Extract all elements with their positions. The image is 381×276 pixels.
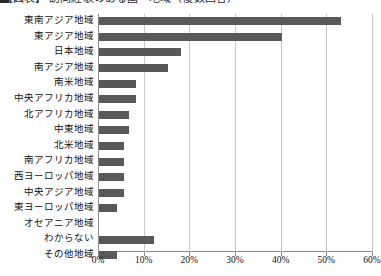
bar-row: 東南アジア地域 — [98, 14, 372, 30]
bar — [99, 80, 136, 88]
bar-row: 南アジア地域 — [98, 61, 372, 77]
x-tick-label: 0% — [92, 254, 105, 266]
x-tick-label: 30% — [226, 254, 243, 266]
bar-row: 中央アジア地域 — [98, 186, 372, 202]
chart-title-clipped: 【図表】 訪問経験のある国・地域（複数回答） — [0, 0, 377, 7]
bar — [99, 111, 129, 119]
gridline — [372, 14, 373, 252]
bar — [99, 17, 341, 25]
x-tick-label: 50% — [318, 254, 335, 266]
bar-row: 西ヨーロッパ地域 — [98, 170, 372, 186]
bar — [99, 95, 136, 103]
bar-row: 東アジア地域 — [98, 30, 372, 46]
category-label: 南アジア地域 — [0, 60, 94, 76]
category-label: 南米地域 — [0, 75, 94, 91]
bar-row: 中東地域 — [98, 123, 372, 139]
bar — [99, 189, 124, 197]
bar — [99, 64, 168, 72]
category-label: その他地域 — [0, 247, 94, 263]
bar — [99, 173, 124, 181]
bar-row: 北アフリカ地域 — [98, 108, 372, 124]
category-label: わからない — [0, 231, 94, 247]
x-tick-label: 60% — [363, 254, 380, 266]
bar — [99, 204, 117, 212]
category-label: 中央アフリカ地域 — [0, 91, 94, 107]
x-tick-label: 20% — [181, 254, 198, 266]
category-label: オセアニア地域 — [0, 216, 94, 232]
page-title: 【図表】 訪問経験のある国・地域（複数回答） — [2, 0, 238, 5]
category-label: 北アフリカ地域 — [0, 107, 94, 123]
category-label: 西ヨーロッパ地域 — [0, 169, 94, 185]
category-label: 東アジア地域 — [0, 29, 94, 45]
x-tick-label: 10% — [135, 254, 152, 266]
bar — [99, 236, 154, 244]
x-axis-labels: 0%10%20%30%40%50%60% — [98, 254, 372, 268]
category-label: 南アフリカ地域 — [0, 153, 94, 169]
bar — [99, 158, 124, 166]
plot-area: 東南アジア地域東アジア地域日本地域南アジア地域南米地域中央アフリカ地域北アフリカ… — [98, 14, 372, 252]
category-label: 北米地域 — [0, 138, 94, 154]
bar — [99, 33, 282, 41]
bar-row: 北米地域 — [98, 139, 372, 155]
category-label: 東ヨーロッパ地域 — [0, 200, 94, 216]
bar-row: オセアニア地域 — [98, 217, 372, 233]
bar-rows: 東南アジア地域東アジア地域日本地域南アジア地域南米地域中央アフリカ地域北アフリカ… — [98, 14, 372, 252]
category-label: 中東地域 — [0, 122, 94, 138]
bar-row: 南米地域 — [98, 76, 372, 92]
bar-row: 日本地域 — [98, 45, 372, 61]
category-label: 中央アジア地域 — [0, 185, 94, 201]
bar — [99, 48, 181, 56]
x-tick-label: 40% — [272, 254, 289, 266]
bar-row: 中央アフリカ地域 — [98, 92, 372, 108]
bar — [99, 126, 129, 134]
bar — [99, 142, 124, 150]
category-label: 日本地域 — [0, 44, 94, 60]
bar-row: 東ヨーロッパ地域 — [98, 201, 372, 217]
category-label: 東南アジア地域 — [0, 13, 94, 29]
bar-row: 南アフリカ地域 — [98, 154, 372, 170]
bar-row: わからない — [98, 232, 372, 248]
